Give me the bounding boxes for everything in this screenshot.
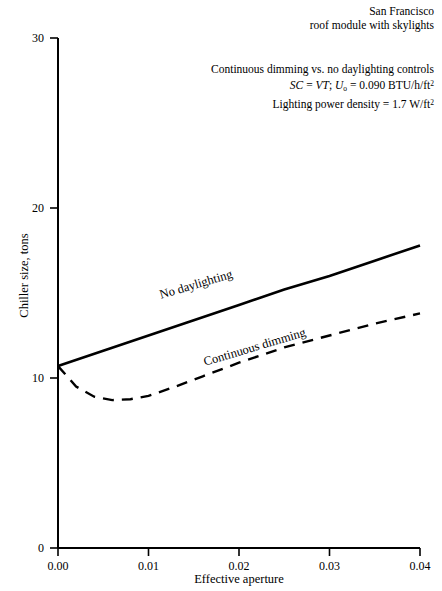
chart-figure: San Francisco roof module with skylights… — [0, 0, 442, 591]
y-axis-title: Chiller size, tons — [17, 196, 32, 356]
y-tick-label-10: 10 — [14, 371, 44, 386]
y-axis-ticks — [50, 38, 58, 548]
x-axis-title: Effective aperture — [58, 572, 420, 587]
plot-canvas — [0, 0, 442, 591]
x-axis-ticks — [58, 548, 420, 556]
y-tick-label-0: 0 — [14, 541, 44, 556]
y-tick-label-30: 30 — [14, 31, 44, 46]
